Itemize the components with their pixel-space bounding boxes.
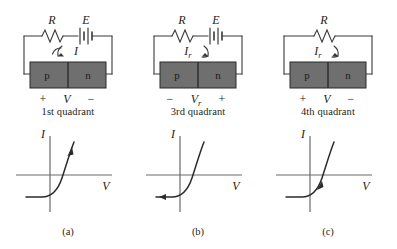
circuit-diagram-a: p n R E I + V − bbox=[2, 8, 134, 108]
resistor-label-c: R bbox=[319, 13, 328, 27]
iv-graph-b: I V bbox=[132, 128, 264, 224]
graph-x-label-a: V bbox=[102, 179, 111, 193]
current-arrowhead-a bbox=[58, 53, 65, 57]
operating-point-arrow-b bbox=[159, 194, 166, 200]
pn-block-b: p n bbox=[160, 62, 236, 88]
block-label-n-b: n bbox=[215, 69, 221, 81]
panel-c: p n R Ir + V − 4th quadrant I V bbox=[262, 0, 394, 249]
graph-y-label-a: I bbox=[40, 128, 46, 141]
resistor-label-a: R bbox=[47, 13, 56, 27]
circuit-diagram-b: p n R E Ir − Vr + bbox=[132, 8, 264, 108]
current-arrow-c bbox=[332, 46, 339, 57]
iv-graph-c: I V bbox=[262, 128, 394, 224]
polarity-left-b: − bbox=[167, 92, 174, 106]
current-label-b: Ir bbox=[183, 44, 192, 60]
caption-b: (b) bbox=[132, 226, 264, 237]
block-label-p-a: p bbox=[44, 69, 50, 81]
circuit-diagram-c: p n R Ir + V − bbox=[262, 8, 394, 108]
polarity-right-c: − bbox=[348, 92, 355, 106]
quadrant-label-c: 4th quadrant bbox=[262, 106, 394, 117]
resistor-label-b: R bbox=[177, 13, 186, 27]
current-arrowhead-b bbox=[202, 53, 209, 57]
resistor-symbol-c bbox=[314, 30, 335, 42]
graph-y-label-b: I bbox=[170, 128, 176, 141]
voltage-label-c: V bbox=[323, 92, 332, 106]
quadrant-label-a: 1st quadrant bbox=[2, 106, 134, 117]
source-label-a: E bbox=[81, 13, 90, 27]
operating-point-arrow-a bbox=[68, 147, 74, 156]
polarity-left-c: + bbox=[300, 92, 307, 106]
voltage-label-a: V bbox=[63, 92, 72, 106]
current-label-sub-b: r bbox=[188, 50, 192, 60]
polarity-right-b: + bbox=[219, 92, 226, 106]
resistor-symbol-a bbox=[42, 30, 63, 42]
iv-graph-a: I V bbox=[2, 128, 134, 224]
panel-b: p n R E Ir − Vr + 3rd quadrant bbox=[132, 0, 264, 249]
figure-pn-junction-quadrants: p n R E I + V − 1st quadrant bbox=[0, 0, 397, 249]
caption-c: (c) bbox=[262, 226, 394, 237]
current-label-sub-c: r bbox=[318, 50, 322, 60]
quadrant-label-b: 3rd quadrant bbox=[132, 106, 264, 117]
current-arrow-b bbox=[202, 46, 209, 57]
panel-a: p n R E I + V − 1st quadrant bbox=[2, 0, 134, 249]
block-label-n-a: n bbox=[85, 69, 91, 81]
graph-x-label-c: V bbox=[362, 179, 371, 193]
source-label-b: E bbox=[211, 13, 220, 27]
current-label-a: I bbox=[73, 44, 79, 58]
pn-block-c: p n bbox=[290, 62, 366, 88]
pn-block-a: p n bbox=[30, 62, 106, 88]
block-label-p-b: p bbox=[174, 69, 180, 81]
polarity-right-a: − bbox=[88, 92, 95, 106]
block-label-p-c: p bbox=[304, 69, 310, 81]
polarity-left-a: + bbox=[40, 92, 47, 106]
block-label-n-c: n bbox=[345, 69, 351, 81]
graph-y-label-c: I bbox=[300, 128, 306, 141]
current-arrowhead-c bbox=[332, 53, 339, 57]
resistor-symbol-b bbox=[172, 30, 193, 42]
current-label-c: Ir bbox=[313, 44, 322, 60]
caption-a: (a) bbox=[2, 226, 134, 237]
graph-x-label-b: V bbox=[232, 179, 241, 193]
